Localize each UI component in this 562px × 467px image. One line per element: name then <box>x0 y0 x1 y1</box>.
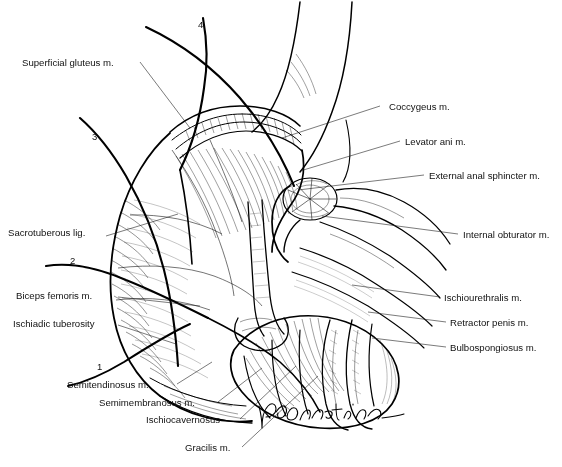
marker-1: 1 <box>97 361 102 372</box>
label-internal-obturator: Internal obturator m. <box>463 229 549 240</box>
label-external-anal-sphincter: External anal sphincter m. <box>429 170 540 181</box>
label-ischiocavernosus: Ischiocavernosus <box>146 414 220 425</box>
label-retractor-penis: Retractor penis m. <box>450 317 528 328</box>
label-ischiadic-tuberosity: Ischiadic tuberosity <box>13 318 95 329</box>
label-biceps-femoris: Biceps femoris m. <box>16 290 92 301</box>
marker-2: 2 <box>70 255 75 266</box>
marker-4: 4 <box>198 19 203 30</box>
label-gracilis: Gracilis m. <box>185 442 230 453</box>
label-semimembranosus: Semimembranosus m. <box>99 397 195 408</box>
label-semitendinosus: Semitendinosus m. <box>67 379 149 390</box>
label-levator-ani: Levator ani m. <box>405 136 466 147</box>
label-ischiourethralis: Ischiourethralis m. <box>444 292 522 303</box>
label-bulbospongiosus: Bulbospongiosus m. <box>450 342 536 353</box>
anatomical-illustration: Superficial gluteus m.Sacrotuberous lig.… <box>0 0 562 467</box>
label-sacrotuberous-lig: Sacrotuberous lig. <box>8 227 85 238</box>
label-coccygeus: Coccygeus m. <box>389 101 450 112</box>
marker-3: 3 <box>92 131 97 142</box>
label-superficial-gluteus: Superficial gluteus m. <box>22 57 114 68</box>
